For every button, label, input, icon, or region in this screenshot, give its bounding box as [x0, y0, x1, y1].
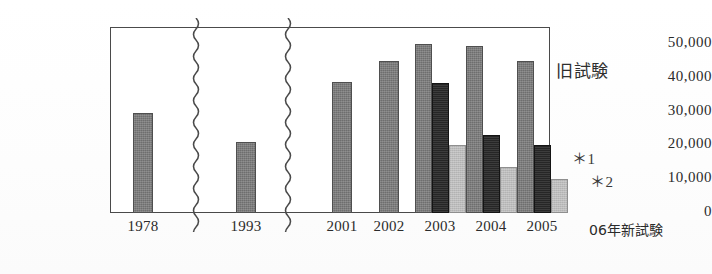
x-axis-tick-label-1978: 1978 — [127, 218, 158, 235]
y-axis-tick-label: 50,000 — [612, 34, 712, 51]
x-axis-tick-label-1993: 1993 — [230, 218, 261, 235]
bar-chart: 50,00040,00030,00020,00010,0000 19781993… — [0, 0, 712, 274]
bar-2005-series-1 — [517, 61, 534, 213]
x-axis-tick-label-2002: 2002 — [373, 218, 404, 235]
x-axis-label-new-exam: 06年新試験 — [589, 219, 663, 239]
y-axis-tick-label: 40,000 — [612, 68, 712, 85]
note-star-2: ＊2 — [590, 170, 614, 191]
bar-2002-series-1 — [379, 61, 399, 213]
bar-2004-series-3 — [500, 167, 517, 213]
bar-2005-series-2 — [534, 145, 551, 213]
x-axis-tick-label-2001: 2001 — [326, 218, 357, 235]
bar-2003-series-3 — [449, 145, 466, 213]
y-axis-tick-label: 0 — [612, 203, 712, 220]
legend-label-old-exam: 旧試験 — [556, 57, 609, 82]
bar-2005-series-3 — [551, 179, 568, 213]
bar-1993-series-1 — [236, 142, 256, 213]
bar-2001-series-1 — [332, 82, 352, 213]
note-star-1: ＊1 — [572, 147, 596, 168]
bar-1978-series-1 — [133, 113, 153, 213]
y-axis-tick-label: 10,000 — [612, 169, 712, 186]
bar-2003-series-1 — [415, 44, 432, 213]
y-axis-tick-label: 30,000 — [612, 102, 712, 119]
bar-2004-series-2 — [483, 135, 500, 213]
x-axis-tick-label-2004: 2004 — [475, 218, 506, 235]
bar-2003-series-2 — [432, 83, 449, 213]
y-axis-tick-label: 20,000 — [612, 135, 712, 152]
x-axis-tick-label-2003: 2003 — [424, 218, 455, 235]
x-axis-tick-label-2005: 2005 — [526, 218, 557, 235]
bar-2004-series-1 — [466, 46, 483, 213]
